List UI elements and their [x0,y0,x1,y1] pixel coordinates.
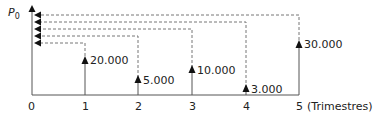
svg-text:30.000: 30.000 [304,38,343,51]
svg-text:2: 2 [135,100,142,113]
svg-text:3.000: 3.000 [251,83,283,96]
p0-label: P0 [8,6,20,21]
arrow-up-icon [82,56,89,64]
x-tick-labels: 0 1 2 3 4 5 (Trimestres) [28,100,373,113]
arrow-up-icon [189,65,196,73]
flow-period-2: 5.000 [135,74,175,95]
flow-period-4: 3.000 [243,83,283,96]
arrow-left-icon [34,40,41,47]
svg-text:1: 1 [82,100,89,113]
flow-period-5: 30.000 [296,38,343,95]
svg-text:10.000: 10.000 [197,64,236,77]
svg-text:20.000: 20.000 [90,54,129,67]
flow-period-1: 20.000 [82,54,129,95]
arrow-up-icon [243,84,250,92]
arrow-up-icon [135,75,142,83]
svg-text:5: 5 [296,100,303,113]
cash-flows: 20.000 5.000 10.000 3.000 30.000 [82,38,343,96]
y-axis: P0 [8,5,36,95]
arrow-left-icon [34,19,41,26]
x-unit-label: (Trimestres) [307,100,373,113]
svg-text:3: 3 [189,100,196,113]
arrow-up-icon [296,40,303,48]
arrow-left-icon [34,12,41,19]
svg-text:4: 4 [243,100,250,113]
flow-period-3: 10.000 [189,64,236,95]
cash-flow-diagram: P0 20.000 5.000 10.000 [0,0,379,117]
arrow-left-icon [34,33,41,40]
svg-text:0: 0 [28,100,35,113]
arrow-left-icon [34,26,41,33]
present-value-arrowheads [34,12,41,47]
y-axis-arrow-icon [29,5,36,12]
svg-text:5.000: 5.000 [143,74,175,87]
